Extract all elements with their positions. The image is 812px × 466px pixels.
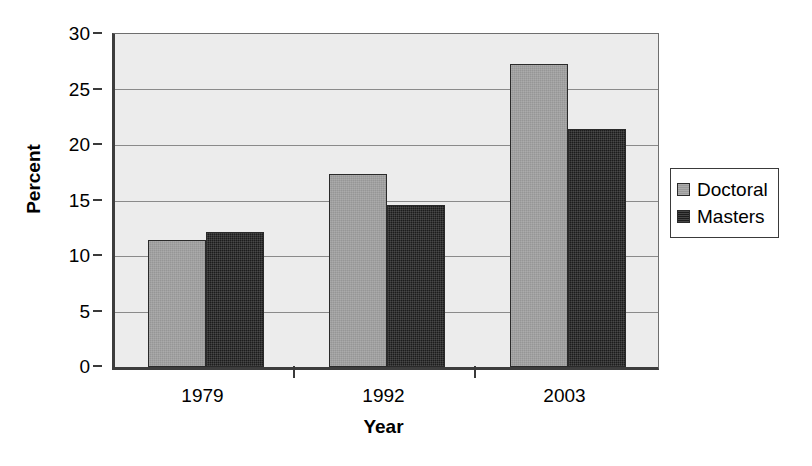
bar-masters-1979[interactable] bbox=[206, 232, 264, 367]
plot-area bbox=[112, 33, 659, 370]
bar-masters-2003[interactable] bbox=[568, 129, 626, 367]
legend-label-doctoral: Doctoral bbox=[697, 180, 768, 199]
y-axis-title: Percent bbox=[23, 119, 45, 239]
legend-swatch-masters bbox=[677, 210, 690, 223]
legend-entry-masters[interactable]: Masters bbox=[677, 203, 768, 230]
bar-masters-1992[interactable] bbox=[387, 205, 445, 367]
y-axis-tick-label: 0 bbox=[79, 357, 90, 376]
legend-swatch-doctoral bbox=[677, 183, 690, 196]
x-axis-title: Year bbox=[112, 416, 655, 438]
y-axis-tick-label: 5 bbox=[79, 301, 90, 320]
y-axis-tick-label: 15 bbox=[69, 190, 90, 209]
legend-entry-doctoral[interactable]: Doctoral bbox=[677, 176, 768, 203]
y-axis-tick-mark bbox=[93, 32, 102, 34]
y-axis-tick-mark bbox=[93, 310, 102, 312]
x-axis-tick-label: 2003 bbox=[543, 386, 585, 406]
y-axis-tick-label: 10 bbox=[69, 246, 90, 265]
bar-doctoral-2003[interactable] bbox=[510, 64, 568, 367]
y-axis-tick-mark bbox=[93, 88, 102, 90]
bar-doctoral-1979[interactable] bbox=[148, 240, 206, 367]
y-axis-tick-label: 20 bbox=[69, 135, 90, 154]
legend-label-masters: Masters bbox=[697, 207, 765, 226]
y-axis-tick-label: 25 bbox=[69, 79, 90, 98]
y-axis-tick-labels: 051015202530 bbox=[46, 33, 102, 366]
bar-doctoral-1992[interactable] bbox=[329, 174, 387, 367]
x-axis-tick-mark bbox=[293, 366, 295, 378]
chart-legend: Doctoral Masters bbox=[670, 168, 779, 238]
x-axis-tick-mark bbox=[474, 366, 476, 378]
bar-chart-figure: Percent 051015202530 197919922003 Year D… bbox=[0, 0, 812, 466]
y-axis-tick-mark bbox=[93, 365, 102, 367]
x-axis-tick-label: 1992 bbox=[362, 386, 404, 406]
y-axis-tick-mark bbox=[93, 199, 102, 201]
y-axis-tick-mark bbox=[93, 254, 102, 256]
y-axis-tick-mark bbox=[93, 143, 102, 145]
y-axis-tick-label: 30 bbox=[69, 24, 90, 43]
x-axis-tick-label: 1979 bbox=[181, 386, 223, 406]
bars-layer bbox=[115, 34, 658, 367]
